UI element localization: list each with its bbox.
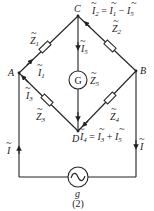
arrow-I2-icon — [86, 23, 90, 27]
label-Z3: Z3 ~ — [36, 103, 46, 124]
label-I-right: I ~ — [139, 133, 145, 152]
label-I-left: I ~ — [6, 137, 12, 156]
impedance-z3-resistor — [41, 94, 53, 106]
svg-text:~: ~ — [80, 35, 86, 46]
svg-text:~: ~ — [6, 137, 12, 148]
arrow-I1-icon — [27, 61, 31, 65]
svg-text:~: ~ — [37, 59, 43, 70]
node-label-D: D — [71, 133, 80, 144]
svg-text:~: ~ — [91, 0, 97, 8]
node-dot-C — [77, 15, 80, 18]
label-Z4: Z4 ~ — [110, 103, 120, 124]
svg-text:~: ~ — [91, 67, 97, 78]
svg-text:~: ~ — [131, 0, 137, 8]
galvanometer-icon: G — [69, 71, 87, 89]
node-dot-A — [18, 72, 21, 75]
equation-at-D: I4 = I3 + I5 ~ ~ ~ — [79, 123, 125, 144]
svg-text:~: ~ — [119, 123, 125, 134]
node-label-C: C — [74, 3, 81, 14]
impedance-z1-resistor — [39, 41, 51, 53]
svg-text:~: ~ — [139, 133, 145, 144]
svg-text:~: ~ — [111, 0, 117, 8]
node-dot-B — [135, 70, 138, 73]
node-label-A: A — [7, 67, 15, 78]
node-label-B: B — [140, 65, 146, 76]
svg-text:~: ~ — [37, 103, 43, 114]
label-Z1: Z1 ~ — [30, 27, 39, 48]
label-I1: I1 ~ — [37, 59, 45, 80]
impedance-z2-resistor — [104, 40, 116, 52]
svg-text:~: ~ — [99, 123, 105, 134]
ac-source-icon — [68, 167, 88, 187]
svg-text:~: ~ — [25, 82, 31, 93]
bridge-circuit-diagram: G C A B D Z1 ~ Z2 ~ Z3 ~ Z4 ~ Z5 ~ I1 ~ — [0, 0, 154, 211]
label-Z2: Z2 ~ — [112, 15, 122, 36]
figure-caption: (2) — [72, 198, 84, 210]
equation-at-C: I2 = I1 − I5 ~ ~ ~ — [91, 0, 137, 18]
label-Z5: Z5 ~ — [90, 67, 100, 88]
svg-text:~: ~ — [111, 103, 117, 114]
galvanometer-label: G — [74, 75, 81, 86]
arrow-I4-icon — [84, 121, 88, 125]
svg-text:~: ~ — [31, 27, 37, 38]
svg-text:~: ~ — [79, 123, 85, 134]
label-I5: I5 ~ — [80, 35, 88, 56]
